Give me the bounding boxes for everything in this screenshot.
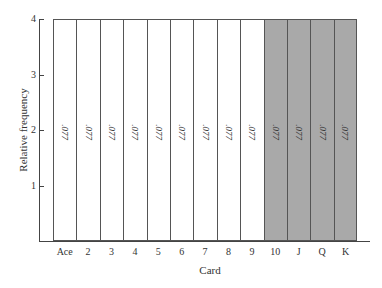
bar-value-label: .077 xyxy=(340,124,350,140)
x-category-label: 8 xyxy=(217,246,241,257)
x-category-label: 7 xyxy=(193,246,217,257)
bar-value-label: .077 xyxy=(107,124,117,140)
bar-value-label: .077 xyxy=(271,124,281,140)
bar-value-label: .077 xyxy=(201,124,211,140)
bar-value-label: .077 xyxy=(60,124,70,140)
x-category-label: Ace xyxy=(53,246,77,257)
bar-value-label: .077 xyxy=(177,124,187,140)
x-category-label: 4 xyxy=(123,246,147,257)
bar: .077 xyxy=(100,19,123,241)
x-category-label: 10 xyxy=(263,246,287,257)
x-axis-title: Card xyxy=(180,264,240,276)
x-category-label: 3 xyxy=(100,246,124,257)
y-tick xyxy=(39,186,44,187)
bar-value-label: .077 xyxy=(154,124,164,140)
x-axis xyxy=(39,241,370,242)
y-tick-label: 2 xyxy=(28,125,36,135)
bar-value-label: .077 xyxy=(224,124,234,140)
y-tick-label: 4 xyxy=(28,14,36,24)
bar: .077 xyxy=(53,19,76,241)
y-tick-label: 3 xyxy=(28,70,36,80)
bar-value-label: .077 xyxy=(130,124,140,140)
bar: .077 xyxy=(310,19,333,241)
x-category-label: 9 xyxy=(240,246,264,257)
bar: .077 xyxy=(76,19,99,241)
y-tick xyxy=(39,130,44,131)
bar: .077 xyxy=(240,19,263,241)
bar: .077 xyxy=(170,19,193,241)
x-category-label: J xyxy=(287,246,311,257)
bar: .077 xyxy=(264,19,287,241)
bar: .077 xyxy=(193,19,216,241)
bar: .077 xyxy=(147,19,170,241)
bar: .077 xyxy=(123,19,146,241)
x-category-label: 6 xyxy=(170,246,194,257)
bar: .077 xyxy=(287,19,310,241)
y-tick-label: 1 xyxy=(28,181,36,191)
y-tick xyxy=(39,75,44,76)
bar: .077 xyxy=(217,19,240,241)
x-category-label: 5 xyxy=(146,246,170,257)
x-category-label: Q xyxy=(310,246,334,257)
bar-value-label: .077 xyxy=(247,124,257,140)
bar: .077 xyxy=(334,19,357,241)
bar-value-label: .077 xyxy=(318,124,328,140)
bar-value-label: .077 xyxy=(84,124,94,140)
y-tick xyxy=(39,19,44,20)
x-category-label: K xyxy=(334,246,358,257)
x-category-label: 2 xyxy=(76,246,100,257)
bar-chart: Relative frequency Card 1234 .077Ace.077… xyxy=(0,0,382,288)
bar-value-label: .077 xyxy=(294,124,304,140)
